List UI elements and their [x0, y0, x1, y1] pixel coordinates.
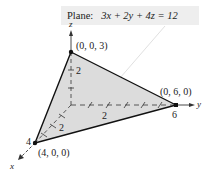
vertex-z: [69, 50, 73, 54]
y-tick-6: 6: [172, 110, 177, 120]
plane-triangle: [35, 52, 176, 143]
z-axis-label: z: [69, 20, 73, 29]
vertex-y: [174, 103, 178, 107]
vertex-x: [33, 141, 37, 145]
vertex-x-label: (4, 0, 0): [38, 148, 70, 158]
leader-line: [120, 26, 165, 78]
z-axis-arrow: [69, 30, 73, 36]
vertex-z-label: (0, 0, 3): [76, 41, 108, 51]
x-tick-4: 4: [26, 137, 31, 147]
vertex-y-label: (0, 6, 0): [160, 87, 192, 97]
x-axis-label: x: [10, 162, 14, 171]
y-axis-label: y: [197, 100, 201, 109]
x-tick-2: 2: [59, 123, 64, 133]
z-tick-2: 2: [76, 66, 81, 76]
y-tick-2: 2: [102, 111, 107, 121]
y-axis-arrow: [189, 103, 195, 107]
